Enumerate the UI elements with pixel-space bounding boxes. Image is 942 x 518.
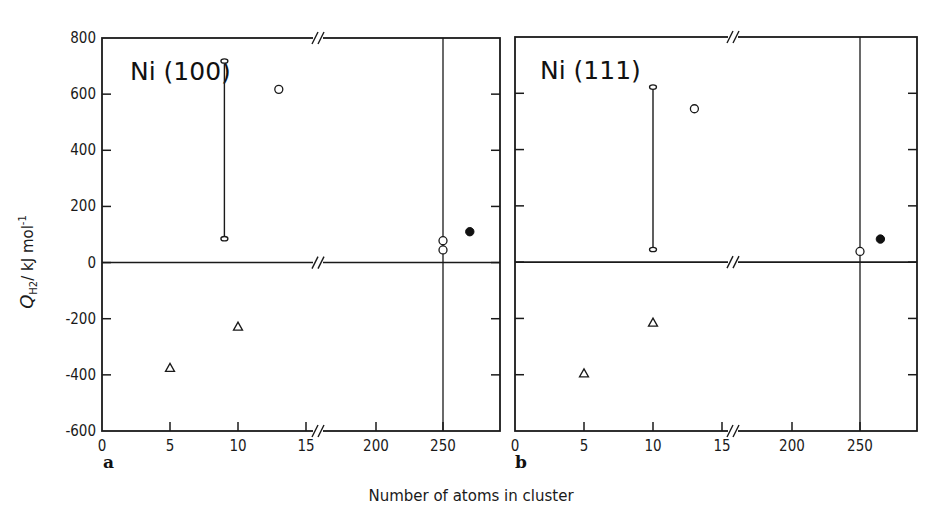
x-tick-label: 5 <box>580 437 589 455</box>
triangle-marker <box>649 318 658 326</box>
triangle-marker <box>166 363 175 371</box>
triangle-marker <box>234 322 243 330</box>
open-circle-marker <box>439 246 447 254</box>
y-tick-label: -400 <box>65 366 96 384</box>
open-circle-marker <box>439 237 447 245</box>
filled-circle-marker <box>876 235 884 243</box>
panel-b: 051015200250Ni (111)b <box>511 31 917 472</box>
range-end-marker <box>221 237 228 241</box>
range-end-marker <box>650 85 657 89</box>
y-tick-label: 600 <box>70 85 96 103</box>
panel-letter: a <box>103 452 114 472</box>
open-circle-marker <box>856 247 864 255</box>
y-tick-label: -200 <box>65 310 96 328</box>
panel-title: Ni (100) <box>130 57 231 86</box>
range-end-marker <box>650 247 657 251</box>
panel-letter: b <box>515 452 527 472</box>
y-tick-label: -600 <box>65 422 96 440</box>
x-tick-label: 200 <box>363 437 389 455</box>
plot-frame <box>515 37 917 431</box>
y-tick-label: 200 <box>70 197 96 215</box>
x-axis-label: Number of atoms in cluster <box>368 487 574 505</box>
y-tick-label: 0 <box>87 254 96 272</box>
x-tick-label: 250 <box>847 437 873 455</box>
x-tick-label: 200 <box>779 437 805 455</box>
y-tick-label: 400 <box>70 141 96 159</box>
y-tick-label: 800 <box>70 29 96 47</box>
plot-frame <box>102 38 500 431</box>
y-axis-label: QH2/ kJ mol-1 <box>16 215 39 309</box>
panel-title: Ni (111) <box>540 56 641 85</box>
x-tick-label: 5 <box>166 437 175 455</box>
triangle-marker <box>580 369 589 377</box>
x-tick-label: 250 <box>430 437 456 455</box>
x-tick-label: 15 <box>713 437 730 455</box>
range-end-marker <box>221 59 228 63</box>
filled-circle-marker <box>466 227 474 235</box>
open-circle-marker <box>275 85 283 93</box>
chart-figure: 8006004002000-200-400-600051015200250Ni … <box>0 0 942 518</box>
x-tick-label: 10 <box>229 437 246 455</box>
x-tick-label: 10 <box>644 437 661 455</box>
x-tick-label: 15 <box>297 437 314 455</box>
open-circle-marker <box>690 105 698 113</box>
panel-a: 8006004002000-200-400-600051015200250Ni … <box>65 29 500 472</box>
